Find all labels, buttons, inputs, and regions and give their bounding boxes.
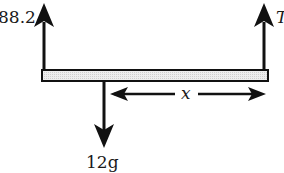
right-force-label: T <box>276 7 284 27</box>
beam <box>42 70 268 81</box>
diagram-canvas: 88.2 T 12g x <box>0 0 284 173</box>
left-upward-force-arrow <box>34 3 54 70</box>
downward-force-arrow <box>94 81 114 148</box>
dimension-label-x: x <box>181 83 191 103</box>
left-force-label: 88.2 <box>0 7 36 27</box>
down-force-label: 12g <box>86 152 119 172</box>
right-upward-force-arrow <box>254 3 274 70</box>
free-body-diagram: 88.2 T 12g x <box>0 0 284 173</box>
